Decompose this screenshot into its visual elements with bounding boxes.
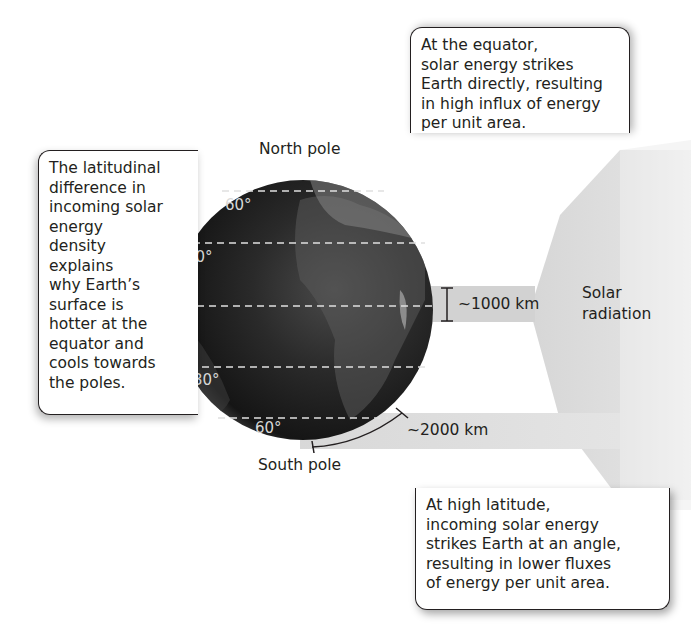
callout-line: difference in (49, 179, 188, 199)
callout-line: incoming solar energy (426, 516, 659, 536)
north-pole-label: North pole (259, 140, 340, 158)
solar-radiation-label-line2: radiation (582, 304, 651, 325)
callout-line: in high influx of energy (421, 95, 619, 115)
high-latitude-callout: At high latitude, incoming solar energy … (415, 488, 670, 610)
callout-line: per unit area. (421, 114, 619, 134)
equator-beam-width-label: ~1000 km (458, 295, 539, 313)
callout-line: solar energy strikes (421, 56, 619, 76)
solar-radiation-label-line1: Solar (582, 283, 651, 304)
callout-line: At the equator, (421, 36, 619, 56)
callout-line: equator and (49, 335, 188, 355)
callout-line: hotter at the (49, 315, 188, 335)
callout-line: cools towards (49, 354, 188, 374)
latitudinal-difference-callout: The latitudinal difference in incoming s… (38, 150, 198, 415)
callout-line: The latitudinal (49, 159, 188, 179)
latitude-60s-label: 60° (255, 419, 282, 437)
solar-radiation-label: Solar radiation (582, 283, 651, 325)
south-pole-label: South pole (258, 456, 341, 474)
callout-line: explains (49, 257, 188, 277)
callout-line: incoming solar (49, 198, 188, 218)
callout-line: energy (49, 218, 188, 238)
callout-line: surface is (49, 296, 188, 316)
high-latitude-beam-width-label: ~2000 km (407, 421, 488, 439)
callout-line: of energy per unit area. (426, 574, 659, 594)
callout-line: why Earth’s (49, 276, 188, 296)
equator-callout: At the equator, solar energy strikes Ear… (410, 27, 630, 133)
callout-line: Earth directly, resulting (421, 75, 619, 95)
solar-radiation-diagram: North pole South pole 60° 30° 0° 30° 60°… (0, 0, 691, 631)
callout-line: density (49, 237, 188, 257)
callout-line: strikes Earth at an angle, (426, 535, 659, 555)
latitude-60n-label: 60° (225, 196, 252, 214)
callout-line: resulting in lower fluxes (426, 555, 659, 575)
callout-line: the poles. (49, 374, 188, 394)
callout-line: At high latitude, (426, 496, 659, 516)
